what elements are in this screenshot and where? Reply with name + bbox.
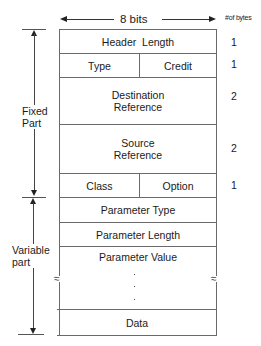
field-credit: Credit: [140, 54, 216, 77]
field-label: Data: [126, 317, 148, 329]
width-label: 8 bits: [120, 12, 148, 26]
bytes-header-length: 1: [227, 36, 241, 48]
row-divider: [57, 335, 217, 336]
bytes-type-credit: 1: [227, 58, 241, 70]
label-line: part: [12, 256, 50, 268]
field-label: Parameter Length: [96, 229, 180, 241]
bytes-class-option: 1: [227, 179, 241, 191]
field-label: Header Length: [102, 36, 174, 48]
field-label-line: Destination: [112, 89, 165, 101]
label-line: Part: [22, 117, 48, 129]
field-label: Parameter Type: [101, 204, 176, 216]
field-label-line: Reference: [114, 149, 162, 161]
variable-part-label: Variable part: [12, 244, 50, 268]
width-arrow-left-line: [66, 19, 114, 20]
label-line: Fixed: [22, 105, 48, 117]
field-type: Type: [60, 54, 139, 77]
box-right-border: [216, 29, 217, 335]
field-data: Data: [58, 310, 216, 335]
field-label-line: Reference: [114, 101, 162, 113]
field-destination-reference: Destination Reference: [60, 78, 216, 124]
field-source-reference: Source Reference: [60, 125, 216, 173]
field-parameter-length: Parameter Length: [60, 223, 216, 246]
field-header-length: Header Length: [60, 30, 216, 53]
field-label: Class: [86, 180, 112, 192]
field-parameter-type: Parameter Type: [60, 198, 216, 222]
break-mark-icon: ≈: [211, 276, 217, 282]
label-line: Variable: [12, 244, 50, 256]
field-label: Type: [88, 60, 111, 72]
bytes-destination-reference: 2: [227, 90, 241, 102]
field-label: Credit: [164, 60, 192, 72]
field-class: Class: [60, 174, 139, 197]
width-arrow-right-line: [162, 19, 210, 20]
field-parameter-value: Parameter Value: [60, 247, 216, 267]
arrow-right-icon: [209, 16, 216, 22]
bytes-source-reference: 2: [227, 142, 241, 154]
field-label: Option: [163, 180, 194, 192]
break-mark-icon: ≈: [54, 276, 60, 282]
field-label-line: Source: [121, 137, 154, 149]
field-label: Parameter Value: [99, 251, 177, 263]
arrow-down-icon: [31, 190, 37, 196]
dimension-tick: [18, 334, 44, 335]
bytes-column-label: #of bytes: [225, 14, 252, 21]
fixed-part-label: Fixed Part: [22, 105, 48, 129]
field-option: Option: [140, 174, 216, 197]
